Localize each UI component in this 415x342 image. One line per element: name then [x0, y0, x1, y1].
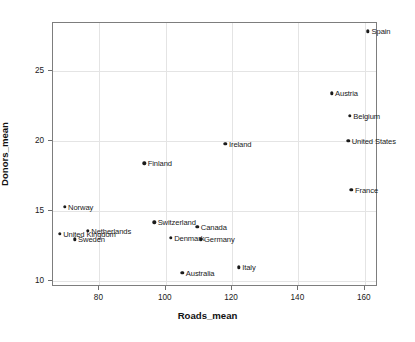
gridline-vertical [365, 23, 366, 285]
data-point-label: United States [352, 136, 396, 145]
data-point [142, 162, 145, 165]
data-point [348, 114, 351, 117]
gridline-vertical [298, 23, 299, 285]
gridline-horizontal [53, 71, 376, 72]
y-axis-tick [48, 210, 52, 211]
data-point [224, 142, 227, 145]
y-axis-title: Donors_mean [0, 122, 10, 186]
data-point-label: Norway [68, 202, 93, 211]
data-point [169, 236, 172, 239]
data-point [350, 188, 353, 191]
x-axis-tick-label: 140 [291, 293, 305, 302]
gridline-vertical [166, 23, 167, 285]
data-point-label: Sweden [78, 235, 105, 244]
data-point-label: Australia [186, 268, 215, 277]
data-point [73, 238, 76, 241]
x-axis-tick [98, 286, 99, 290]
data-point [330, 92, 333, 95]
x-axis-tick [165, 286, 166, 290]
data-point [237, 266, 240, 269]
data-point-label: Canada [201, 222, 227, 231]
data-point-label: Ireland [229, 139, 252, 148]
x-axis-tick-label: 80 [94, 293, 103, 302]
gridline-horizontal [53, 211, 376, 212]
data-point-label: France [355, 186, 378, 195]
gridline-horizontal [53, 281, 376, 282]
data-point [196, 225, 199, 228]
gridline-vertical [99, 23, 100, 285]
gridline-vertical [232, 23, 233, 285]
y-axis-tick-label: 25 [24, 65, 44, 74]
x-axis-tick [297, 286, 298, 290]
data-point [366, 30, 369, 33]
x-axis-tick-label: 160 [357, 293, 371, 302]
data-point-label: Austria [335, 89, 358, 98]
data-point-label: Germany [204, 235, 235, 244]
data-point-label: Belgium [353, 111, 380, 120]
x-axis-tick [231, 286, 232, 290]
y-axis-tick [48, 140, 52, 141]
y-axis-tick-label: 15 [24, 206, 44, 215]
gridline-horizontal [53, 141, 376, 142]
y-axis-tick-label: 20 [24, 135, 44, 144]
data-point [58, 232, 61, 235]
x-axis-tick [364, 286, 365, 290]
data-point-label: Italy [242, 263, 255, 272]
data-point [63, 205, 66, 208]
y-axis-tick [48, 70, 52, 71]
x-axis-tick-label: 120 [224, 293, 238, 302]
x-axis-title: Roads_mean [0, 310, 415, 321]
plot-area: SpainAustriaBelgiumUnited StatesIrelandF… [52, 22, 377, 286]
data-point [346, 139, 349, 142]
y-axis-tick [48, 280, 52, 281]
x-axis-tick-label: 100 [158, 293, 172, 302]
data-point-label: Finland [148, 159, 172, 168]
y-axis-tick-label: 10 [24, 276, 44, 285]
scatter-plot-figure: SpainAustriaBelgiumUnited StatesIrelandF… [0, 0, 415, 342]
data-point-label: Spain [372, 27, 391, 36]
data-point-label: Switzerland [158, 218, 196, 227]
data-point [152, 221, 155, 224]
data-point [181, 271, 184, 274]
